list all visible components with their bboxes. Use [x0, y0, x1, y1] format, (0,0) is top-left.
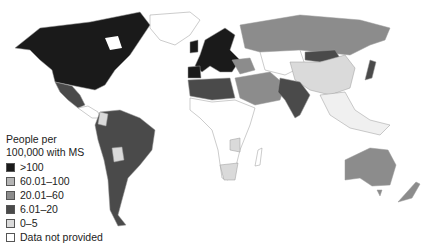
region-australia	[345, 148, 396, 186]
region-north-america	[15, 12, 150, 90]
legend-item-no-data: Data not provided	[6, 230, 103, 244]
region-middle-east	[235, 72, 285, 105]
region-bolivia	[112, 147, 124, 162]
region-greenland	[150, 12, 200, 45]
swatch-no-data	[6, 233, 15, 242]
legend-item-0-5: 0–5	[6, 216, 103, 230]
swatch-60-100	[6, 177, 15, 186]
region-new-zealand	[398, 182, 420, 202]
swatch-20-60	[6, 191, 15, 200]
region-europe	[195, 28, 240, 72]
legend: People per 100,000 with MS >100 60.01–10…	[6, 133, 103, 244]
swatch-6-20	[6, 205, 15, 214]
swatch-gt100	[6, 163, 15, 172]
region-north-africa	[188, 78, 235, 100]
region-iberia	[188, 66, 201, 78]
legend-item-gt100: >100	[6, 160, 103, 174]
legend-item-6-20: 6.01–20	[6, 202, 103, 216]
region-russia	[240, 15, 390, 55]
swatch-0-5	[6, 219, 15, 228]
legend-title: People per 100,000 with MS	[6, 133, 103, 159]
region-japan	[365, 60, 376, 80]
legend-item-60-100: 60.01–100	[6, 174, 103, 188]
region-south-america	[95, 110, 155, 226]
legend-item-20-60: 20.01–60	[6, 188, 103, 202]
region-uk	[190, 40, 198, 53]
